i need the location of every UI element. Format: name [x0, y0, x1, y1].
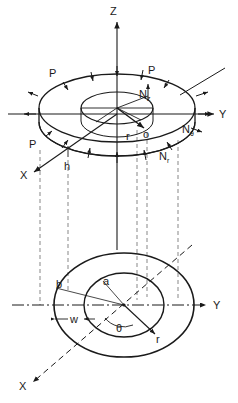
svg-text:N: N	[139, 88, 147, 100]
radius-vector-upper	[117, 108, 144, 128]
annular-plate-diagram: Z Y X P P P N z N θ N r h r o Y X a b w …	[0, 0, 238, 403]
load-label-p-left: P	[29, 138, 36, 150]
load-label-p-top-left: P	[49, 67, 56, 79]
dimension-label-b: b	[56, 278, 62, 290]
dimension-label-w: w	[69, 313, 78, 325]
svg-text:N: N	[182, 123, 190, 135]
axis-x-lower	[33, 245, 192, 382]
force-label-nr: N r	[159, 150, 170, 164]
axis-label-y-upper: Y	[219, 108, 227, 120]
dimension-label-r: r	[156, 333, 160, 345]
dimension-label-theta: θ	[116, 322, 122, 334]
plan-annulus	[12, 245, 206, 382]
thickness-label: h	[64, 160, 70, 172]
radius-b-leader	[56, 288, 124, 305]
axis-label-x-upper: X	[20, 169, 28, 181]
figure-canvas: Z Y X P P P N z N θ N r h r o Y X a b w …	[0, 0, 238, 403]
force-label-ntheta: N θ	[182, 123, 194, 137]
radius-vector-lower	[124, 305, 155, 334]
svg-text:z: z	[147, 95, 151, 102]
axis-label-x-lower: X	[19, 380, 27, 392]
dimension-label-a: a	[103, 275, 110, 287]
force-label-nz: N z	[139, 88, 151, 102]
axis-label-y-lower: Y	[213, 299, 221, 311]
svg-text:N: N	[159, 150, 167, 162]
svg-text:r: r	[167, 157, 170, 164]
svg-text:θ: θ	[190, 130, 194, 137]
axis-label-z-upper: Z	[110, 5, 117, 17]
origin-label: o	[143, 128, 149, 140]
radius-vector-label-upper: r	[126, 130, 130, 142]
leader-line-upper-right	[180, 68, 225, 95]
load-label-p-top-right: P	[148, 64, 155, 76]
